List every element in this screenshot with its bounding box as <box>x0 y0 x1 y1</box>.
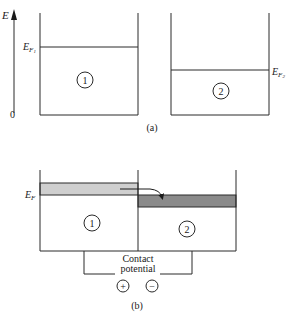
panel-b: EF 1 2 Contact potential + − (b) <box>24 170 236 312</box>
axis-arrow-icon <box>11 9 17 20</box>
fermi-level-2-label: EF2 <box>271 66 285 79</box>
metal-1-well: EF1 1 <box>22 13 138 115</box>
minus-sign: − <box>149 281 155 292</box>
origin-label: 0 <box>10 109 15 120</box>
contact-potential-label-line2: potential <box>121 263 156 274</box>
energy-axis: E 0 <box>1 9 17 120</box>
panel-a-caption: (a) <box>146 122 157 134</box>
fermi-level-1-label: EF1 <box>22 41 36 54</box>
plus-sign: + <box>120 281 126 292</box>
contact-bracket-right <box>160 251 192 274</box>
band-diagram-figure: E 0 EF1 1 EF2 2 (a) <box>0 0 290 317</box>
panel-b-caption: (b) <box>131 300 143 312</box>
fermi-level-label: EF <box>24 189 36 202</box>
panel-a: E 0 EF1 1 EF2 2 (a) <box>1 9 285 134</box>
metal-1-number: 1 <box>83 75 88 86</box>
metal-1-number: 1 <box>90 218 95 229</box>
metal-2-number: 2 <box>185 224 190 235</box>
metal-2-well: EF2 2 <box>171 13 285 115</box>
energy-axis-label: E <box>1 9 9 21</box>
metal-2-number: 2 <box>219 86 224 97</box>
metal-2-occupied-band <box>138 195 236 207</box>
contact-bracket-left <box>84 251 115 274</box>
